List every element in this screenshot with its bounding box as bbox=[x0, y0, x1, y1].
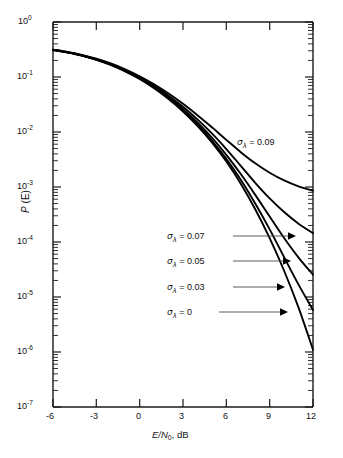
x-tick-label-4: 6 bbox=[223, 412, 228, 421]
sigma-symbol: σ bbox=[237, 137, 243, 147]
lambda-subscript: λ bbox=[243, 142, 247, 150]
series-annotation-003: σλ = 0.03 bbox=[167, 282, 205, 292]
x-tick-label-0: -6 bbox=[46, 412, 54, 421]
sigma-symbol: σ bbox=[167, 231, 173, 241]
y-tick-label-2: 10-2 bbox=[17, 127, 33, 136]
x-major-ticks bbox=[53, 22, 313, 407]
y-tick-label-5: 10-5 bbox=[17, 292, 33, 301]
x-tick-label-1: -3 bbox=[90, 412, 98, 421]
y-axis-title: P (E) bbox=[20, 179, 31, 225]
y-tick-label-1: 10-1 bbox=[17, 72, 33, 81]
series-value-003: 0.03 bbox=[187, 282, 205, 292]
y-minor-ticks bbox=[53, 25, 313, 391]
series-value-009: 0.09 bbox=[257, 137, 275, 147]
curve-series-0 bbox=[53, 50, 313, 191]
figure-panel: 100 10-1 10-2 10-3 10-4 10-5 10-6 10-7 -… bbox=[0, 0, 343, 458]
curve-series-4 bbox=[53, 50, 313, 350]
series-annotation-000: σλ = 0 bbox=[167, 307, 192, 317]
x-axis-title-sub: 0 bbox=[168, 434, 172, 441]
series-value-005: 0.05 bbox=[187, 256, 205, 266]
x-axis-title-tail: , dB bbox=[172, 429, 189, 440]
y-axis-title-main: P bbox=[20, 206, 31, 213]
y-major-ticks bbox=[53, 22, 313, 407]
data-curves bbox=[53, 50, 313, 350]
series-value-007: 0.07 bbox=[187, 231, 205, 241]
sigma-symbol: σ bbox=[167, 282, 173, 292]
arrowhead-000 bbox=[280, 308, 288, 316]
y-tick-label-0: 100 bbox=[18, 17, 32, 26]
sigma-symbol: σ bbox=[167, 307, 173, 317]
x-axis-title: E/N0, dB bbox=[152, 429, 189, 440]
y-axis-title-tail: (E) bbox=[20, 190, 31, 206]
series-annotation-009: σλ = 0.09 bbox=[237, 137, 275, 147]
series-value-000: 0 bbox=[187, 307, 192, 317]
lambda-subscript: λ bbox=[173, 312, 177, 320]
curve-series-3 bbox=[53, 50, 313, 310]
lambda-subscript: λ bbox=[173, 261, 177, 269]
arrowhead-003 bbox=[277, 283, 285, 291]
x-tick-label-3: 3 bbox=[179, 412, 184, 421]
chart-plot-area bbox=[0, 0, 343, 458]
lambda-subscript: λ bbox=[173, 236, 177, 244]
x-axis-title-main: E/N bbox=[152, 429, 168, 440]
series-annotation-007: σλ = 0.07 bbox=[167, 231, 205, 241]
x-tick-label-5: 9 bbox=[266, 412, 271, 421]
y-tick-label-4: 10-4 bbox=[17, 237, 33, 246]
y-tick-label-6: 10-6 bbox=[17, 347, 33, 356]
sigma-symbol: σ bbox=[167, 256, 173, 266]
arrowhead-007 bbox=[288, 232, 296, 240]
lambda-subscript: λ bbox=[173, 287, 177, 295]
y-tick-label-7: 10-7 bbox=[17, 402, 33, 411]
x-tick-label-6: 12 bbox=[306, 412, 316, 421]
x-tick-label-2: 0 bbox=[136, 412, 141, 421]
axis-frame bbox=[53, 22, 313, 407]
series-annotation-005: σλ = 0.05 bbox=[167, 256, 205, 266]
